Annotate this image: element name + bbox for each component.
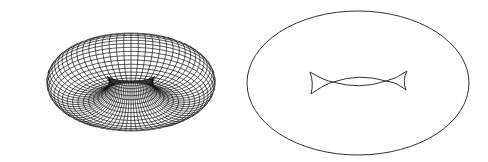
figure — [0, 0, 488, 162]
inner-cusp-curve — [310, 71, 407, 94]
outer-outline — [247, 11, 469, 155]
torus-apparent-contour — [0, 0, 488, 162]
